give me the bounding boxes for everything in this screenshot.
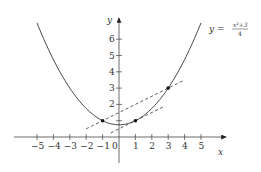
function-label: y = x²+3 4 bbox=[208, 21, 248, 37]
x-tick-label: 3 bbox=[166, 141, 172, 151]
y-tick-label: 6 bbox=[109, 34, 115, 44]
y-tick-label: 5 bbox=[109, 51, 115, 61]
x-tick-label: −3 bbox=[64, 141, 78, 151]
parabola-diagram: −5−4−3−2−1012345 23456 x y y = x²+3 4 bbox=[0, 0, 261, 172]
x-tick-label: −4 bbox=[47, 141, 61, 151]
x-tick-label: 1 bbox=[133, 141, 139, 151]
point-marker bbox=[166, 86, 170, 90]
function-label-numerator: x²+3 bbox=[233, 21, 248, 28]
y-ticks: 23456 bbox=[109, 34, 122, 121]
function-label-denominator: 4 bbox=[238, 30, 242, 37]
x-axis-label: x bbox=[218, 147, 223, 157]
y-tick-label: 3 bbox=[109, 83, 115, 93]
y-tick-label: 2 bbox=[109, 99, 115, 109]
x-tick-label: −1 bbox=[97, 141, 110, 151]
x-tick-label: −2 bbox=[80, 141, 93, 151]
x-tick-label: 2 bbox=[149, 141, 155, 151]
x-tick-label: 5 bbox=[199, 141, 205, 151]
point-marker bbox=[101, 119, 105, 123]
y-tick-label: 4 bbox=[109, 67, 115, 77]
x-tick-label: 4 bbox=[182, 141, 188, 151]
point-marker bbox=[134, 119, 138, 123]
x-tick-label: 0 bbox=[112, 141, 118, 151]
x-tick-label: −5 bbox=[31, 141, 45, 151]
function-label-lhs: y = bbox=[208, 24, 225, 34]
x-ticks: −5−4−3−2−1012345 bbox=[31, 134, 205, 151]
y-axis-label: y bbox=[106, 15, 113, 25]
